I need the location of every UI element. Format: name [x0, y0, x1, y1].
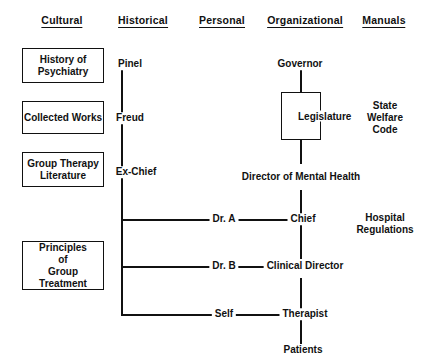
column-header-historical: Historical	[118, 14, 168, 28]
cultural-box-history-of-psychiatry[interactable]: History of Psychiatry	[22, 48, 104, 83]
column-header-personal: Personal	[199, 14, 245, 28]
organizational-node-governor[interactable]: Governor	[274, 58, 325, 70]
cultural-box-label: Principles of Group Treatment	[23, 242, 103, 290]
org-connector-chief-clinical-director	[300, 219, 302, 259]
historical-connector-pinel-freud	[121, 70, 123, 115]
organizational-node-patients[interactable]: Patients	[281, 344, 326, 356]
cultural-box-label: Collected Works	[24, 112, 102, 124]
historical-node-freud[interactable]: Freud	[113, 112, 147, 124]
org-connector-governor-legislature	[300, 70, 302, 92]
historical-connector-drB-self	[121, 266, 123, 315]
historical-node-ex-chief[interactable]: Ex-Chief	[113, 166, 160, 178]
organizational-node-legislature[interactable]: Legislature	[296, 111, 353, 122]
personal-node-dr-b[interactable]: Dr. B	[209, 260, 238, 272]
organizational-node-clinical-director[interactable]: Clinical Director	[264, 260, 347, 272]
organizational-node-chief[interactable]: Chief	[288, 213, 319, 225]
column-header-organizational: Organizational	[267, 14, 343, 28]
cultural-box-collected-works[interactable]: Collected Works	[22, 101, 104, 134]
organizational-influence-diagram: Cultural Historical Personal Organizatio…	[0, 0, 427, 361]
historical-connector-freud-exchief	[121, 124, 123, 168]
cultural-box-principles-of-group-treatment[interactable]: Principles of Group Treatment	[22, 241, 104, 290]
column-header-cultural: Cultural	[41, 14, 82, 28]
organizational-node-director-of-mental-health[interactable]: Director of Mental Health	[239, 171, 363, 183]
historical-connector-drA-drB	[121, 219, 123, 267]
manuals-item-hospital-regulations: Hospital Regulations	[356, 212, 413, 236]
cultural-box-group-therapy-literature[interactable]: Group Therapy Literature	[22, 152, 104, 187]
historical-node-pinel[interactable]: Pinel	[115, 58, 145, 70]
column-header-manuals: Manuals	[362, 14, 405, 28]
historical-connector-exchief-drA	[121, 178, 123, 220]
personal-node-dr-a[interactable]: Dr. A	[210, 213, 239, 225]
org-connector-legislature-director	[300, 140, 302, 164]
cultural-box-label: Group Therapy Literature	[27, 158, 99, 182]
organizational-node-therapist[interactable]: Therapist	[279, 308, 330, 320]
cultural-box-label: History of Psychiatry	[38, 54, 89, 78]
manuals-item-state-welfare-code: State Welfare Code	[367, 100, 403, 136]
personal-node-self[interactable]: Self	[212, 308, 236, 320]
